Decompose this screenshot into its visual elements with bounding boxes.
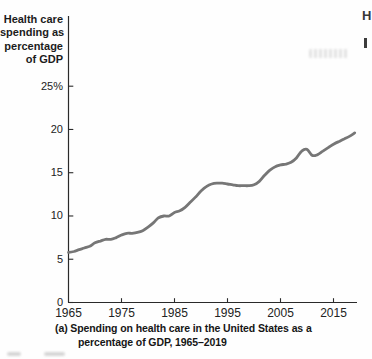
scan-smudge: [309, 49, 349, 58]
x-tick-label: 1985: [158, 307, 192, 320]
y-tick-label: 25%: [28, 80, 63, 93]
figure-caption-line1: (a) Spending on health care in the Unite…: [55, 322, 312, 336]
x-tick-label: 2005: [264, 307, 298, 320]
scan-artifact: [44, 352, 65, 356]
y-tick-label: 5: [28, 253, 63, 266]
y-tick-label: 15: [28, 166, 63, 179]
cropped-text-fragment: H: [362, 8, 371, 23]
x-tick-label: 2015: [317, 307, 351, 320]
scan-artifact: [7, 352, 21, 356]
axis-ticks: [69, 86, 334, 302]
x-tick-label: 1975: [105, 307, 139, 320]
figure-caption-line2: percentage of GDP, 1965–2019: [78, 336, 227, 350]
spending-line-series: [69, 133, 355, 252]
figure-panel: Health care spending as percentage of GD…: [0, 0, 372, 359]
cropped-text-fragment-bar: [364, 38, 367, 48]
y-tick-label: 20: [28, 123, 63, 136]
y-tick-label: 10: [28, 209, 63, 222]
x-tick-label: 1965: [52, 307, 86, 320]
x-tick-label: 1995: [211, 307, 245, 320]
